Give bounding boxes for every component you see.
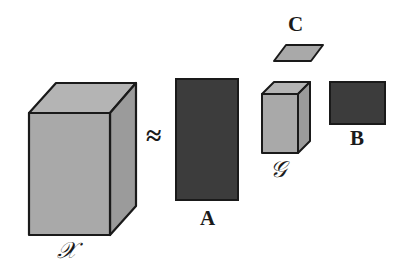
tucker-decomposition-figure: ≈ 𝒳 A 𝒢 B C xyxy=(0,0,411,273)
factor-a-label: A xyxy=(200,208,216,229)
approximately-equal-symbol: ≈ xyxy=(146,122,161,150)
factor-b-label: B xyxy=(350,128,365,149)
factor-a-shape xyxy=(176,79,238,200)
core-g-side-face xyxy=(298,82,310,153)
tensor-x-label: 𝒳 xyxy=(57,239,77,262)
factor-c-shape xyxy=(274,45,323,61)
core-g-label: 𝒢 xyxy=(270,158,286,181)
core-g-shape xyxy=(262,82,310,153)
tensor-x-shape xyxy=(29,83,136,235)
factor-b-shape xyxy=(330,82,385,124)
factor-c-parallelogram xyxy=(274,45,323,61)
factor-b-rect xyxy=(330,82,385,124)
core-g-front-face xyxy=(262,94,298,153)
tensor-x-front-face xyxy=(29,113,110,235)
factor-c-label: C xyxy=(288,14,304,35)
factor-a-rect xyxy=(176,79,238,200)
